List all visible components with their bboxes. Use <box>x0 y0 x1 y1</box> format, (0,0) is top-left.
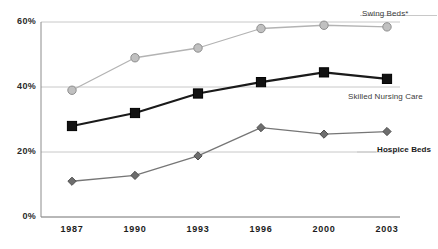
data-point-1-2 <box>193 89 202 98</box>
x-tick-label-2003: 2003 <box>357 224 417 234</box>
data-point-0-2 <box>194 44 202 52</box>
series-label-swing-beds: Swing Beds* <box>362 9 408 18</box>
data-point-2-3 <box>257 124 265 132</box>
data-point-0-3 <box>257 24 265 32</box>
series-line-2 <box>72 128 387 182</box>
data-point-0-4 <box>320 21 328 29</box>
y-tick-label-20: 20% <box>2 146 36 156</box>
series-markers-group <box>67 21 391 185</box>
y-tick-label-0: 0% <box>2 211 36 221</box>
y-tick-label-60: 60% <box>2 16 36 26</box>
data-point-1-3 <box>256 78 265 87</box>
line-chart-plot <box>0 0 438 249</box>
x-tick-label-1996: 1996 <box>231 224 291 234</box>
x-tick-label-1990: 1990 <box>105 224 165 234</box>
x-tick-label-1987: 1987 <box>42 224 102 234</box>
data-point-0-1 <box>131 54 139 62</box>
data-point-1-4 <box>319 68 328 77</box>
data-point-2-2 <box>194 152 202 160</box>
data-point-1-5 <box>382 74 391 83</box>
series-line-1 <box>72 72 387 126</box>
x-tick-label-1993: 1993 <box>168 224 228 234</box>
series-label-skilled-nursing-care: Skilled Nursing Care <box>348 92 423 101</box>
axis-lines-group <box>41 22 400 217</box>
series-lines-group <box>72 25 387 181</box>
data-point-2-4 <box>320 130 328 138</box>
data-point-0-0 <box>68 86 76 94</box>
chart-container: 60%40%20%0% 198719901993199620002003 Swi… <box>0 0 438 249</box>
data-point-1-1 <box>130 108 139 117</box>
gridlines-group <box>41 22 400 217</box>
y-tick-label-40: 40% <box>2 81 36 91</box>
label-leader-lines-group <box>357 16 437 153</box>
x-tick-label-2000: 2000 <box>294 224 354 234</box>
series-label-hospice-beds: Hospice Beds <box>377 145 431 154</box>
data-point-2-5 <box>383 127 391 135</box>
data-point-1-0 <box>67 121 76 130</box>
data-point-2-1 <box>131 171 139 179</box>
data-point-2-0 <box>68 177 76 185</box>
data-point-0-5 <box>383 23 391 31</box>
series-line-0 <box>72 25 387 90</box>
